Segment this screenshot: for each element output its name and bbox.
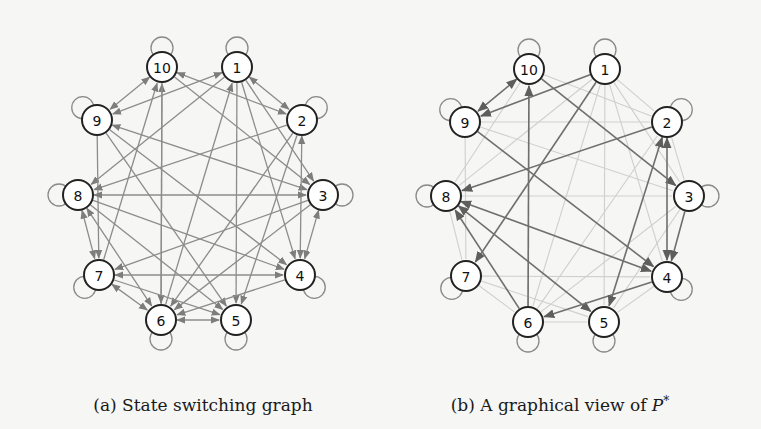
edge-1-5 bbox=[236, 83, 237, 303]
edge-8-6 bbox=[87, 208, 152, 306]
node-label-4: 4 bbox=[296, 268, 305, 284]
edge-6-8 bbox=[455, 210, 519, 308]
edge-2-6 bbox=[171, 133, 293, 306]
caption-b: (b) A graphical view of P* bbox=[451, 394, 670, 415]
edge-7-4 bbox=[482, 276, 650, 277]
node-label-5: 5 bbox=[600, 315, 609, 331]
node-label-9: 9 bbox=[461, 115, 470, 131]
edge-9-7 bbox=[465, 138, 466, 259]
node-label-1: 1 bbox=[233, 60, 242, 76]
edge-7-6 bbox=[112, 284, 147, 310]
edge-9-5 bbox=[106, 133, 226, 306]
node-label-3: 3 bbox=[319, 188, 328, 204]
node-label-10: 10 bbox=[520, 62, 538, 78]
edge-2-4 bbox=[300, 136, 302, 258]
edges bbox=[82, 73, 319, 320]
panel-state-switching-graph: 12345678910 (a) State switching graph bbox=[48, 37, 353, 415]
edge-4-5 bbox=[618, 286, 654, 312]
node-label-8: 8 bbox=[442, 189, 451, 205]
edge-9-3 bbox=[480, 127, 673, 191]
node-label-7: 7 bbox=[95, 268, 104, 284]
node-label-6: 6 bbox=[157, 313, 166, 329]
edge-8-4 bbox=[93, 200, 284, 269]
node-label-1: 1 bbox=[601, 62, 610, 78]
node-label-2: 2 bbox=[298, 113, 307, 129]
edge-1-7 bbox=[475, 82, 596, 262]
figure: 12345678910 (a) State switching graph 12… bbox=[0, 0, 761, 429]
edges bbox=[450, 75, 685, 322]
edge-10-9 bbox=[478, 79, 517, 111]
edge-2-8 bbox=[462, 127, 652, 191]
edge-3-4 bbox=[305, 210, 319, 258]
node-label-7: 7 bbox=[462, 269, 471, 285]
edge-1-5 bbox=[604, 85, 605, 305]
edge-7-6 bbox=[479, 286, 514, 312]
node-label-3: 3 bbox=[685, 189, 694, 205]
node-label-8: 8 bbox=[74, 188, 83, 204]
caption-a: (a) State switching graph bbox=[93, 395, 312, 415]
node-label-2: 2 bbox=[663, 115, 672, 131]
node-label-4: 4 bbox=[663, 270, 672, 286]
node-label-9: 9 bbox=[93, 113, 102, 129]
edge-6-10 bbox=[528, 86, 529, 306]
node-label-10: 10 bbox=[153, 60, 171, 76]
edge-9-7 bbox=[97, 136, 99, 258]
node-label-5: 5 bbox=[232, 313, 241, 329]
edge-9-4 bbox=[110, 130, 287, 265]
edge-10-9 bbox=[110, 77, 149, 109]
edge-10-6 bbox=[161, 83, 162, 303]
edge-9-3 bbox=[112, 125, 307, 190]
panel-graphical-view-p-star: 12345678910 (b) A graphical view of P* bbox=[416, 39, 719, 415]
node-label-6: 6 bbox=[524, 315, 533, 331]
